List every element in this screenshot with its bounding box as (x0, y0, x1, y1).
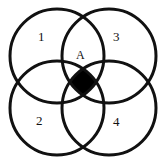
venn-diagram-svg (0, 0, 165, 166)
region-label-1: 1 (38, 30, 45, 43)
region-label-a: A (76, 49, 85, 61)
figure-container: 1 3 2 4 A (0, 0, 165, 166)
region-label-3: 3 (113, 30, 120, 43)
region-label-2: 2 (36, 114, 43, 127)
region-label-4: 4 (113, 115, 120, 128)
